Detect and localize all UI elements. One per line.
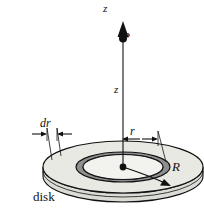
dr-leader-left bbox=[47, 128, 52, 160]
label-r: r bbox=[130, 125, 135, 137]
label-disk: disk bbox=[33, 190, 55, 203]
label-R: R bbox=[172, 160, 180, 173]
label-z-distance: z bbox=[114, 84, 118, 95]
label-point-p: P bbox=[122, 30, 130, 43]
label-z-axis: z bbox=[103, 3, 107, 14]
diagram-canvas bbox=[0, 0, 204, 217]
r-arrow-right-head bbox=[152, 136, 158, 141]
dr-arrow-left-head bbox=[41, 131, 47, 136]
label-dr: dr bbox=[40, 117, 51, 129]
disk-field-diagram: z P z dr r R disk bbox=[0, 0, 204, 217]
